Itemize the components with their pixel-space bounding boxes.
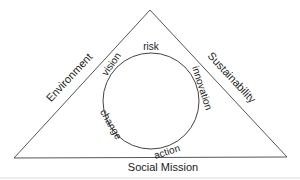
innovation-label: innovation [190,65,215,112]
risk-label: risk [143,41,160,52]
social-mission-label: Social Mission [128,161,198,173]
environment-label: Environment [44,51,95,104]
change-label: change [98,107,124,141]
vision-label: vision [99,50,123,77]
action-label: action [153,142,182,161]
diagram-canvas: Environment Sustainability Social Missio… [0,0,300,180]
